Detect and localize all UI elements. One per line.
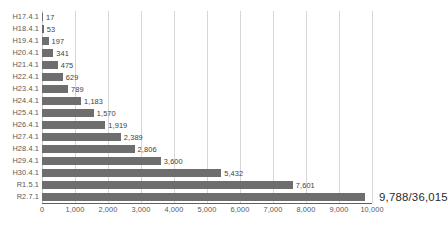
x-tick-label: 9,000 [330,205,349,214]
x-tick-label: 2,000 [99,205,118,214]
x-tick-label: 1,000 [66,205,85,214]
bar-value-label: 1,570 [97,108,116,117]
category-label: R1.5.1 [17,179,39,190]
bar-value-label: 341 [56,48,69,57]
bar-row: 789 [42,83,372,94]
category-label: H23.4.1 [12,83,39,94]
bar [42,25,44,33]
bar [42,97,81,105]
bar-row: 53 [42,23,372,34]
bar-row: 1,919 [42,119,372,130]
bar [42,85,68,93]
bar [42,61,58,69]
x-tick-label: 5,000 [198,205,217,214]
bar-rows: 17531973414756297891,1831,5701,9192,3892… [42,11,372,203]
bar [42,169,221,177]
gridline-10000 [372,11,373,203]
x-tick-label: 3,000 [132,205,151,214]
category-label: H18.4.1 [12,23,39,34]
category-label: R2.7.1 [17,191,39,202]
bar-value-label: 629 [66,72,79,81]
bar [42,109,94,117]
category-label: H27.4.1 [12,131,39,142]
category-label: H20.4.1 [12,47,39,58]
x-tick-label: 8,000 [297,205,316,214]
category-label: H22.4.1 [12,71,39,82]
category-label: H19.4.1 [12,35,39,46]
bar-value-label: 475 [61,60,74,69]
bar [42,37,49,45]
x-tick-label: 6,000 [231,205,250,214]
category-label: H25.4.1 [12,107,39,118]
bar-row: 9,788/36,015 [42,191,372,202]
bar-row: 341 [42,47,372,58]
bar-row: 2,389 [42,131,372,142]
category-axis-labels: H17.4.1H18.4.1H19.4.1H20.4.1H21.4.1H22.4… [0,11,39,203]
bar [42,49,53,57]
bar-value-label: 197 [52,36,65,45]
category-label: H28.4.1 [12,143,39,154]
bar-row: 1,570 [42,107,372,118]
x-tick-label: 10,000 [360,205,383,214]
bar-row: 197 [42,35,372,46]
bar-row: 1,183 [42,95,372,106]
plot-area: 17531973414756297891,1831,5701,9192,3892… [42,11,372,203]
category-label: H26.4.1 [12,119,39,130]
x-tick-label: 7,000 [264,205,283,214]
bar [42,181,293,189]
x-axis-tick-labels: 01,0002,0003,0004,0005,0006,0007,0008,00… [42,205,372,219]
bar-row: 629 [42,71,372,82]
bar-row: 2,806 [42,143,372,154]
bar [42,133,121,141]
bar [42,13,43,21]
bar-value-label: 7,601 [296,180,315,189]
bar-value-label: 17 [46,12,54,21]
bar-value-label: 2,806 [138,144,157,153]
bar-value-label: 2,389 [124,132,143,141]
x-axis-line [42,203,372,204]
bar-value-label-highlight: 9,788/36,015 [379,191,448,203]
x-tick-label: 0 [40,205,44,214]
bar-row: 3,600 [42,155,372,166]
bar-value-label: 1,183 [84,96,103,105]
x-tick-label: 4,000 [165,205,184,214]
category-label: H29.4.1 [12,155,39,166]
category-label: H17.4.1 [12,11,39,22]
bar [42,157,161,165]
bar [42,121,105,129]
bar-value-label: 3,600 [164,156,183,165]
category-label: H30.4.1 [12,167,39,178]
bar-value-label: 53 [47,24,55,33]
bar-value-label: 5,432 [224,168,243,177]
category-label: H21.4.1 [12,59,39,70]
bar [42,193,365,201]
bar-row: 17 [42,11,372,22]
bar [42,145,135,153]
bar-value-label: 1,919 [108,120,127,129]
bar-value-label: 789 [71,84,84,93]
bar-row: 475 [42,59,372,70]
bar [42,73,63,81]
category-label: H24.4.1 [12,95,39,106]
bar-row: 5,432 [42,167,372,178]
bar-row: 7,601 [42,179,372,190]
